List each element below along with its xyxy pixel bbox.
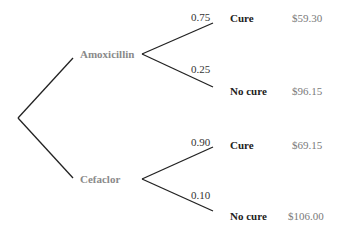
cost-amox-nocure: $96.15 [292,85,322,97]
probability-cef-nocure: 0.10 [191,189,210,201]
probability-amox-nocure: 0.25 [191,63,210,75]
branch-cef-cure [142,147,213,179]
option-amoxicillin: Amoxicillin [80,48,134,60]
branch-amox-cure [142,23,213,54]
decision-tree-lines [0,0,339,236]
branch-root-amoxicillin [18,58,73,118]
cost-amox-cure: $59.30 [292,12,322,24]
outcome-amox-nocure: No cure [230,85,267,97]
option-cefaclor: Cefaclor [80,173,120,185]
outcome-amox-cure: Cure [230,12,254,24]
probability-cef-cure: 0.90 [191,136,210,148]
probability-amox-cure: 0.75 [191,11,210,23]
cost-cef-nocure: $106.00 [288,210,324,222]
outcome-cef-nocure: No cure [230,210,267,222]
cost-cef-cure: $69.15 [292,139,322,151]
branch-root-cefaclor [18,118,73,178]
outcome-cef-cure: Cure [230,139,254,151]
